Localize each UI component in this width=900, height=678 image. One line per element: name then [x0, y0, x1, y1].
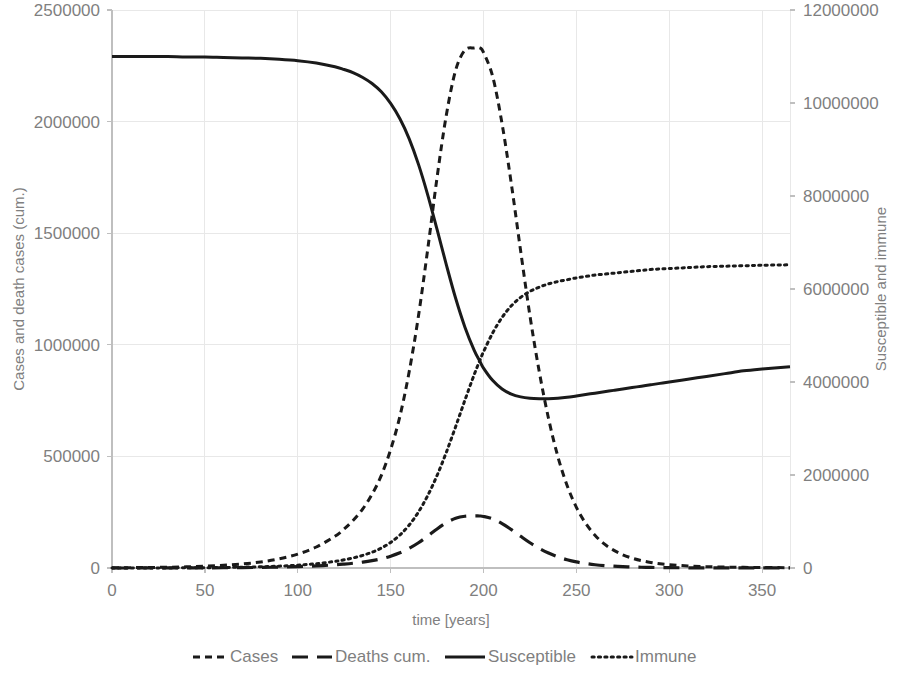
legend-label: Susceptible: [488, 647, 576, 666]
chart-legend: CasesDeaths cum.SusceptibleImmune: [193, 647, 696, 666]
x-axis-tick-label: 0: [107, 581, 116, 600]
series-line-immune: [112, 265, 790, 568]
gridlines: [112, 10, 790, 568]
legend-item-deaths-cum[interactable]: Deaths cum.: [292, 647, 430, 666]
chart-container: 05000001000000150000020000002500000 0200…: [0, 0, 900, 678]
y2-axis-tick-label: 12000000: [803, 1, 879, 20]
x-axis-tick-label: 250: [562, 581, 590, 600]
x-axis-tick-label: 200: [469, 581, 497, 600]
y2-axis-tick-label: 2000000: [803, 466, 869, 485]
y-axis-tick-label: 0: [91, 559, 100, 578]
y2-axis-tick-label: 0: [803, 559, 812, 578]
y-axis-tick-label: 1500000: [34, 224, 100, 243]
legend-item-susceptible[interactable]: Susceptible: [445, 647, 576, 666]
x-axis-tick-label: 100: [284, 581, 312, 600]
series-line-cases: [112, 48, 790, 568]
x-axis-tick-label: 350: [748, 581, 776, 600]
x-axis-title: time [years]: [412, 611, 490, 628]
y-axis-tick-label: 2000000: [34, 113, 100, 132]
legend-label: Cases: [230, 647, 278, 666]
y2-axis-tick-label: 8000000: [803, 187, 869, 206]
y-axis-tick-label: 500000: [43, 447, 100, 466]
y2-axis-tick-label: 4000000: [803, 373, 869, 392]
data-series: [112, 48, 790, 568]
y-axis-title: Cases and death cases (cum.): [10, 187, 27, 390]
y-axis-tick-label: 1000000: [34, 336, 100, 355]
y2-axis-tick-label: 10000000: [803, 94, 879, 113]
y-axis-tick-label: 2500000: [34, 1, 100, 20]
x-axis-tick-label: 300: [655, 581, 683, 600]
series-line-deaths-cum: [112, 516, 790, 568]
legend-label: Immune: [635, 647, 696, 666]
y2-axis-tick-label: 6000000: [803, 280, 869, 299]
epidemic-line-chart: 05000001000000150000020000002500000 0200…: [0, 0, 900, 678]
series-line-susceptible: [112, 56, 790, 398]
x-axis-tick-label: 50: [195, 581, 214, 600]
legend-item-immune[interactable]: Immune: [592, 647, 696, 666]
x-axis-tick-labels: 050100150200250300350: [107, 581, 776, 600]
y-axis-tick-labels: 05000001000000150000020000002500000: [34, 1, 100, 578]
y2-axis-title: Susceptible and immune: [872, 207, 889, 371]
x-axis-tick-label: 150: [376, 581, 404, 600]
y2-axis-tick-labels: 0200000040000006000000800000010000000120…: [803, 1, 879, 578]
legend-label: Deaths cum.: [335, 647, 430, 666]
legend-item-cases[interactable]: Cases: [193, 647, 278, 666]
axis-lines: [107, 10, 795, 573]
